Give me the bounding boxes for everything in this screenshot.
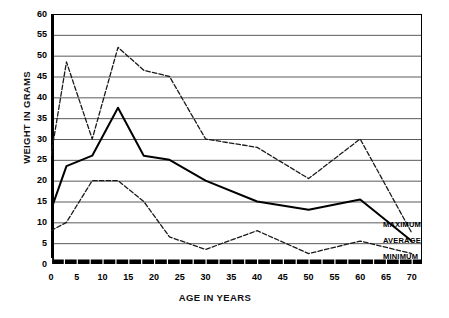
plot-svg	[51, 14, 422, 264]
legend-entry-maximum: MAXIMUM	[383, 217, 447, 233]
y-tick-label: 35	[27, 114, 47, 123]
legend-entry-average: AVERAGE	[383, 233, 447, 249]
y-tick-label: 30	[27, 135, 47, 144]
x-tick-label: 70	[400, 272, 424, 282]
x-tick-label: 10	[91, 272, 115, 282]
y-tick-label: 20	[27, 176, 47, 185]
line-chart: WEIGHT IN GRAMS 051015202530354045505560…	[0, 0, 449, 318]
x-tick-label: 50	[297, 272, 321, 282]
x-tick-label: 65	[374, 272, 398, 282]
series-line-average	[51, 108, 412, 241]
legend-entry-minimum: MINIMUM	[383, 249, 447, 265]
x-tick-label: 40	[245, 272, 269, 282]
y-tick-label: 10	[27, 218, 47, 227]
x-tick-label: 35	[219, 272, 243, 282]
y-tick-label: 60	[27, 10, 47, 19]
y-tick-label: 15	[27, 197, 47, 206]
y-tick-label: 55	[27, 30, 47, 39]
y-tick-label: 0	[27, 260, 47, 269]
y-axis-tick-labels: 051015202530354045505560	[22, 14, 47, 264]
y-tick-label: 50	[27, 51, 47, 60]
series-line-maximum	[51, 47, 412, 232]
y-tick-label: 25	[27, 155, 47, 164]
x-tick-label: 15	[116, 272, 140, 282]
plot-area	[51, 14, 422, 264]
x-tick-label: 5	[65, 272, 89, 282]
x-tick-label: 25	[168, 272, 192, 282]
x-tick-label: 45	[271, 272, 295, 282]
y-tick-label: 45	[27, 72, 47, 81]
x-axis-title: AGE IN YEARS	[50, 292, 380, 303]
x-tick-label: 30	[194, 272, 218, 282]
chart-legend: MAXIMUMAVERAGEMINIMUM	[383, 217, 447, 265]
x-tick-label: 55	[322, 272, 346, 282]
x-tick-label: 20	[142, 272, 166, 282]
y-tick-label: 5	[27, 239, 47, 248]
x-tick-label: 0	[39, 272, 63, 282]
y-tick-label: 40	[27, 93, 47, 102]
x-tick-label: 60	[348, 272, 372, 282]
x-axis-tick-labels: 0510152025303540455055606570	[51, 272, 422, 286]
